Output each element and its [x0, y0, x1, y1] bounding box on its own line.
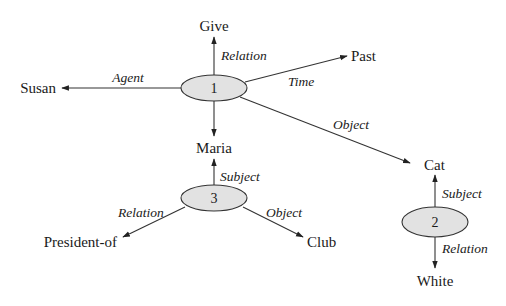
edge-label-f2-subject: Subject	[442, 186, 483, 201]
frame-node-2: 2	[402, 207, 468, 237]
concept-club: Club	[307, 234, 336, 250]
concept-maria: Maria	[196, 140, 232, 156]
frame-node-3: 3	[181, 185, 247, 211]
concept-susan: Susan	[20, 80, 56, 96]
edge-label-f2-relation: Relation	[441, 241, 488, 256]
edge-label-f3-object: Object	[266, 205, 303, 220]
concept-past: Past	[351, 48, 377, 64]
edge-label-f1-object: Object	[333, 117, 370, 132]
edge-label-f3-relation: Relation	[117, 205, 164, 220]
edge-f1-object	[240, 97, 410, 163]
concept-president-of: President-of	[44, 234, 117, 250]
concept-white: White	[417, 273, 454, 289]
frame-number: 3	[211, 191, 218, 206]
semantic-network-diagram: 1 3 2 Give Past Susan Maria Cat White Pr…	[0, 0, 506, 306]
concept-give: Give	[199, 18, 229, 34]
frame-node-1: 1	[181, 75, 247, 101]
edge-label-f1-time: Time	[288, 74, 314, 89]
frame-number: 2	[432, 215, 439, 230]
edge-label-f1-relation: Relation	[220, 48, 267, 63]
edge-label-f1-agent: Agent	[111, 70, 145, 85]
edge-label-f3-subject: Subject	[220, 169, 261, 184]
concept-cat: Cat	[424, 157, 446, 173]
frame-number: 1	[211, 81, 218, 96]
